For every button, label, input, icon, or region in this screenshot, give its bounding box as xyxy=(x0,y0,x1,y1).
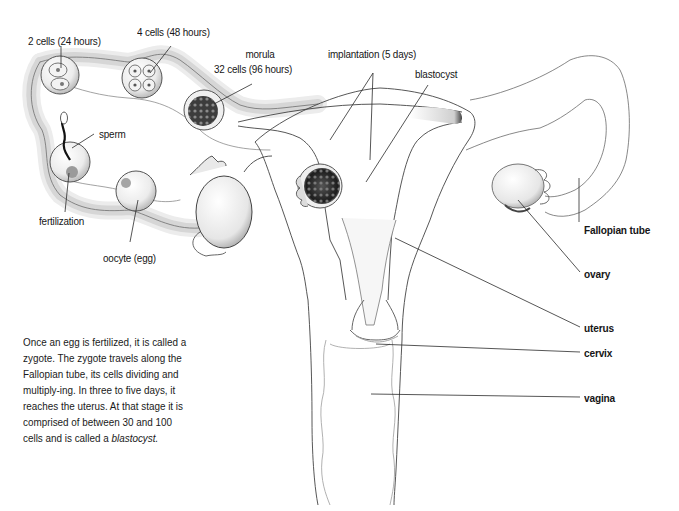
label-oocyte: oocyte (egg) xyxy=(103,252,156,265)
blastocyst xyxy=(296,164,342,208)
leader-sperm xyxy=(72,134,94,148)
label-cervix: cervix xyxy=(584,347,612,360)
caption-body: Once an egg is fertilized, it is called … xyxy=(23,336,186,444)
label-fertilization: fertilization xyxy=(39,215,84,228)
caption-emphasis: blastocyst. xyxy=(112,432,159,444)
leader-implantation-b xyxy=(370,73,373,160)
label-fallopian-tube: Fallopian tube xyxy=(584,224,650,237)
leader-cervix xyxy=(376,344,580,352)
uterine-cavity-horn xyxy=(410,107,462,124)
endometrium xyxy=(342,218,396,325)
two-cell-embryo xyxy=(41,56,79,94)
vagina xyxy=(321,340,395,505)
label-two-cells: 2 cells (24 hours) xyxy=(28,35,101,48)
leader-blastocyst xyxy=(366,85,428,182)
label-uterus: uterus xyxy=(584,322,614,335)
label-morula: morula xyxy=(217,48,303,61)
label-vagina: vagina xyxy=(584,392,615,405)
leader-vagina xyxy=(371,394,580,397)
right-fallopian-tube xyxy=(466,56,629,217)
fertilized-egg xyxy=(50,112,90,182)
leader-implantation-a xyxy=(330,73,373,140)
reproductive-diagram: 2 cells (24 hours) 4 cells (48 hours) mo… xyxy=(0,0,679,511)
four-cell-embryo xyxy=(122,58,162,98)
leader-uterus xyxy=(395,238,580,327)
morula xyxy=(184,90,224,130)
left-ovary xyxy=(190,156,272,256)
right-ovary xyxy=(492,164,550,212)
leader-ovary xyxy=(518,200,580,272)
label-morula-cells: 32 cells (96 hours) xyxy=(214,63,292,76)
label-implantation: implantation (5 days) xyxy=(328,48,416,61)
uterus-outline xyxy=(238,88,475,505)
label-sperm: sperm xyxy=(99,128,126,141)
oocyte xyxy=(116,171,156,211)
label-blastocyst: blastocyst xyxy=(415,68,457,81)
label-ovary: ovary xyxy=(584,268,610,281)
caption-text: Once an egg is fertilized, it is called … xyxy=(23,334,186,446)
label-four-cells: 4 cells (48 hours) xyxy=(137,26,210,39)
